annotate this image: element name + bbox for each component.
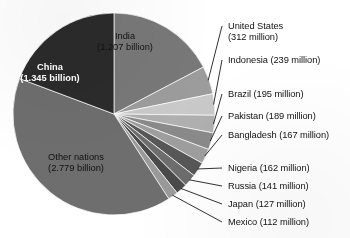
pie-chart-figure: India (1.207 billion)United States (312 … [0, 0, 350, 238]
leader-line-mexico [172, 195, 222, 222]
pie-label-name-indonesia: Indonesia [228, 55, 270, 65]
pie-label-value-nigeria: (162 million) [260, 163, 310, 173]
pie-label-indonesia: Indonesia (239 million) [228, 55, 320, 66]
pie-label-name-india: India [115, 31, 135, 41]
pie-label-bangladesh: Bangladesh (167 million) [228, 130, 329, 141]
pie-label-united-states: United States(312 million) [228, 21, 283, 42]
pie-label-brazil: Brazil (195 million) [228, 89, 303, 100]
pie-label-india: India(1.207 billion) [97, 31, 153, 53]
leader-line-japan [181, 188, 222, 204]
pie-label-name-russia: Russia [228, 181, 259, 191]
pie-label-other-nations: Other nations(2.779 billion) [48, 152, 104, 174]
pie-label-name-mexico: Mexico [228, 217, 260, 227]
pie-label-mexico: Mexico (112 million) [228, 217, 309, 228]
pie-label-name-bangladesh: Bangladesh [228, 130, 279, 140]
pie-label-pakistan: Pakistan (189 million) [228, 111, 316, 122]
leader-line-russia [189, 180, 222, 186]
pie-label-value-china: (1.345 billion) [20, 73, 79, 83]
pie-label-name-pakistan: Pakistan [228, 111, 266, 121]
pie-label-value-other-nations: (2.779 billion) [48, 163, 104, 173]
leader-line-nigeria [198, 168, 222, 169]
pie-label-name-nigeria: Nigeria [228, 163, 260, 173]
pie-label-value-russia: (141 million) [259, 181, 309, 191]
pie-label-value-united-states: (312 million) [228, 32, 278, 42]
pie-label-value-indonesia: (239 million) [270, 55, 320, 65]
pie-label-nigeria: Nigeria (162 million) [228, 163, 310, 174]
pie-label-russia: Russia (141 million) [228, 181, 309, 192]
pie-label-china: China(1.345 billion) [20, 62, 79, 84]
pie-label-value-pakistan: (189 million) [266, 111, 316, 121]
pie-label-name-japan: Japan [228, 199, 256, 209]
pie-label-name-united-states: United States [228, 21, 283, 31]
pie-label-value-japan: (127 million) [256, 199, 306, 209]
pie-label-value-india: (1.207 billion) [97, 42, 153, 52]
pie-label-japan: Japan (127 million) [228, 199, 306, 210]
pie-label-value-bangladesh: (167 million) [279, 130, 329, 140]
pie-label-value-brazil: (195 million) [253, 89, 303, 99]
pie-label-value-mexico: (112 million) [260, 217, 309, 227]
pie-label-name-other-nations: Other nations [48, 152, 104, 162]
pie-label-name-brazil: Brazil [228, 89, 253, 99]
pie-label-name-china: China [37, 62, 63, 72]
